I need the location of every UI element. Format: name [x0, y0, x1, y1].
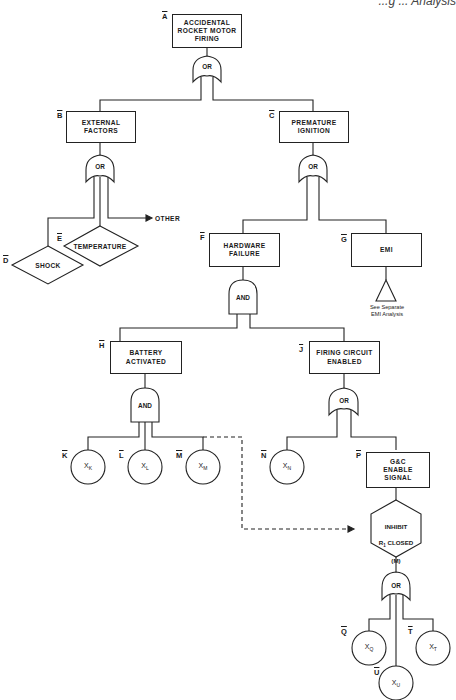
event-label-a: A: [162, 12, 167, 21]
event-label-c: C: [269, 111, 274, 120]
event-label-d: D: [3, 256, 8, 265]
event-premature-ignition: PREMATURE IGNITION: [279, 111, 349, 143]
event-firing-circuit-enabled: FIRING CIRCUIT ENABLED: [309, 341, 380, 374]
gate-and-h: AND: [130, 402, 160, 409]
basic-event-xt: XT: [416, 643, 450, 652]
basic-event-xl: XL: [128, 462, 162, 471]
gate-and-f: AND: [228, 294, 258, 301]
event-emi: EMI: [351, 233, 422, 267]
event-label-e: E: [57, 234, 62, 243]
event-label-t: T: [408, 627, 413, 636]
event-label-n: N: [261, 451, 266, 460]
basic-event-xk: XK: [71, 462, 105, 471]
gate-or-j: OR: [329, 397, 359, 404]
gate-or-a: OR: [192, 63, 222, 70]
event-label-b: B: [57, 111, 62, 120]
basic-event-xq: XQ: [352, 643, 386, 652]
event-label-q: Q: [341, 627, 347, 636]
basic-event-xu: XU: [379, 679, 413, 688]
event-label-h: H: [99, 341, 104, 350]
event-label-j: J: [299, 345, 303, 354]
connector-lines: [0, 0, 456, 700]
event-external-factors: EXTERNAL FACTORS: [66, 111, 136, 143]
event-gc-enable-signal: G&C ENABLE SIGNAL: [366, 452, 430, 488]
gate-or-b: OR: [85, 163, 115, 170]
gate-or-inhibit: OR: [381, 582, 411, 589]
event-shock: SHOCK: [22, 262, 74, 269]
event-temperature: TEMPERATURE: [68, 243, 132, 250]
basic-event-xn: XN: [270, 462, 304, 471]
other-label: OTHER: [155, 215, 180, 222]
event-hardware-failure: HARDWARE FAILURE: [209, 233, 280, 267]
event-label-f: F: [200, 233, 205, 242]
event-label-g: G: [341, 235, 347, 244]
emi-transfer-note: See Separate EMI Analysis: [360, 304, 414, 318]
basic-event-xm: XM: [186, 462, 220, 471]
event-label-u: U: [374, 668, 379, 677]
event-label-m: M: [176, 451, 182, 460]
event-battery-activated: BATTERY ACTIVATED: [110, 341, 182, 374]
event-label-k: K: [62, 451, 67, 460]
inhibit-condition: INHIBIT R1 CLOSED (M): [366, 515, 426, 565]
event-accidental-rocket-motor-firing: ACCIDENTAL ROCKET MOTOR FIRING: [172, 14, 242, 48]
gate-or-c: OR: [298, 163, 328, 170]
event-label-p: P: [356, 451, 361, 460]
fault-tree-diagram: ...g ... Analysis: [0, 0, 456, 700]
event-label-l: L: [119, 451, 124, 460]
